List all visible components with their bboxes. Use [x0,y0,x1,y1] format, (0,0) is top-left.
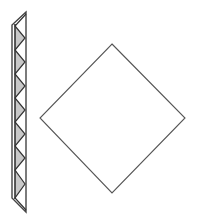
strip [12,12,26,212]
diagram-canvas [0,0,201,223]
diamond-shape [40,44,185,193]
